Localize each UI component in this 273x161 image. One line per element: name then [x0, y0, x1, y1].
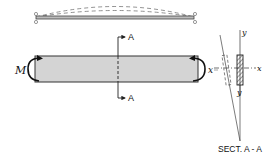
beam-bar [36, 16, 194, 19]
cross-section: y y x SECT. A - A [214, 28, 262, 154]
section-label-bottom: A [128, 93, 134, 103]
bar-axis-label-x: x [208, 65, 213, 75]
right-pin-support-icon [193, 12, 196, 15]
left-pin-support-icon [34, 12, 37, 15]
top-beam [34, 7, 196, 24]
hatched-section [237, 55, 243, 85]
main-bar [35, 56, 198, 82]
section-label-top: A [128, 32, 134, 42]
section-y-bottom-label: y [236, 88, 242, 97]
section-x-right-label: x [257, 64, 262, 73]
moment-label: M [14, 64, 27, 77]
right-pin-support-icon [193, 20, 196, 23]
section-y-top-label: y [241, 28, 247, 37]
beam-diagram: M x A A y y x SECT. A - A [0, 0, 273, 161]
section-caption: SECT. A - A [218, 144, 262, 154]
left-pin-support-icon [34, 20, 37, 23]
deflection-curve-outer [36, 7, 194, 18]
bar-body [35, 56, 198, 82]
